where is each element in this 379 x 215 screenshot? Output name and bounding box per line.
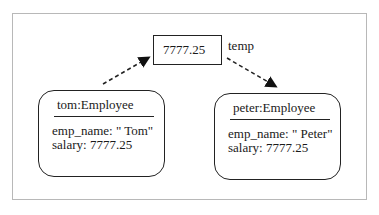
title-underline	[54, 116, 154, 117]
attr-salary: salary: 7777.25	[228, 141, 332, 155]
temp-value: 7777.25	[163, 42, 205, 57]
object-title: tom:Employee	[57, 97, 134, 113]
temp-variable-box: 7777.25	[153, 35, 222, 65]
tom-employee-object: tom:Employee emp_name: " Tom" salary: 77…	[38, 90, 165, 177]
arrow-tom-to-temp	[103, 58, 148, 84]
peter-employee-object: peter:Employee emp_name: " Peter" salary…	[214, 93, 341, 180]
attr-salary: salary: 7777.25	[52, 138, 153, 152]
attr-emp-name: emp_name: " Tom"	[52, 124, 153, 138]
temp-label: temp	[228, 38, 254, 54]
object-title: peter:Employee	[233, 100, 315, 116]
object-attributes: emp_name: " Tom" salary: 7777.25	[52, 124, 153, 152]
attr-emp-name: emp_name: " Peter"	[228, 127, 332, 141]
title-underline	[230, 119, 330, 120]
arrow-temp-to-peter	[227, 58, 275, 86]
object-attributes: emp_name: " Peter" salary: 7777.25	[228, 127, 332, 155]
